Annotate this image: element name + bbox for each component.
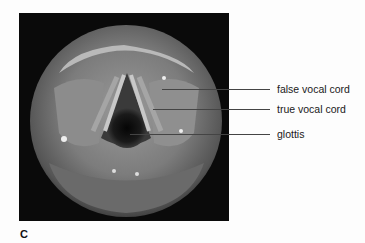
label-true-vocal-cord: true vocal cord	[277, 103, 346, 115]
label-false-vocal-cord: false vocal cord	[277, 83, 350, 95]
panel-letter: C	[20, 228, 28, 240]
highlight	[112, 169, 116, 173]
leader-line-true-vocal-cord	[153, 109, 270, 110]
leader-line-false-vocal-cord	[162, 89, 270, 90]
highlight	[61, 136, 67, 142]
glottis-region	[107, 108, 147, 148]
leader-line-glottis	[130, 134, 270, 135]
larynx-illustration	[19, 13, 229, 221]
label-glottis: glottis	[277, 128, 304, 140]
larynx-photo	[19, 13, 229, 221]
highlight	[135, 172, 139, 176]
highlight	[162, 76, 166, 80]
highlight	[179, 129, 183, 133]
